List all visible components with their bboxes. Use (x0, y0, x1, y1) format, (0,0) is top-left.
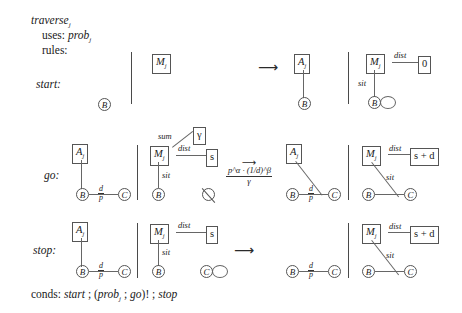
uses-line: uses: probj (42, 29, 91, 44)
rules-label: rules: (42, 44, 68, 56)
node-b-go-lhs: B (76, 188, 89, 201)
null-symbol-go (202, 188, 215, 201)
conds-close-bang: )! (142, 288, 150, 300)
edge-label-dist-stop-effect: dist (389, 221, 401, 231)
box-m-stop-mid: Mj (150, 224, 169, 244)
edge-label-dp-stop-lhs: d p (98, 262, 104, 280)
edge-label-dist-start: dist (394, 50, 406, 60)
edge-sit-start (374, 70, 375, 97)
node-c-stop-effect: C (404, 265, 417, 278)
rule-name: traversej (31, 14, 71, 29)
node-b-stop-rhs: B (286, 265, 299, 278)
node-b-go-rhs: B (286, 188, 299, 201)
edge-label-sit-go: sit (162, 170, 170, 180)
box-dist-value-start: 0 (418, 56, 431, 74)
edge-b-c-stop-effect (375, 271, 404, 272)
edge-label-dist-go-effect: dist (389, 143, 401, 153)
node-b-go-mid: B (152, 188, 165, 201)
rule-label-go: go: (44, 169, 59, 181)
panel-separator (348, 145, 349, 200)
box-m-go-mid: Mj (150, 146, 169, 166)
node-b-start-rhs: B (298, 97, 311, 110)
self-loop-b-start (380, 96, 396, 109)
arrow-start: ⟶ (258, 60, 278, 74)
box-dist-value-go-effect: s + d (410, 148, 439, 166)
edge-label-sit-go-effect: sit (386, 172, 394, 182)
conds-line: conds: start ; (probj ; go)! ; stop (31, 288, 177, 303)
node-c-stop-rhs: C (328, 265, 341, 278)
node-b-stop-mid: B (152, 265, 165, 278)
panel-separator (348, 52, 349, 104)
edge-label-dist-go: dist (178, 143, 190, 153)
edge-label-dp-stop-rhs: d p (308, 262, 314, 280)
conds-stop: stop (158, 288, 177, 300)
arrow-stop: ⟶ (234, 243, 254, 257)
node-b-go-effect: B (362, 188, 375, 201)
node-c-go-lhs: C (118, 188, 131, 201)
box-m-start-effect: Mj (366, 54, 385, 74)
edge-dist-stop-effect (388, 232, 410, 233)
edge-a-b-stop-lhs (81, 238, 82, 267)
box-a-go-rhs: Aj (286, 144, 302, 164)
conds-sep2: ; (124, 288, 127, 300)
node-c-go-effect: C (404, 188, 417, 201)
edge-sit-go (158, 162, 159, 188)
box-dist-value-stop: s (206, 226, 218, 244)
edge-label-sum-go: sum (158, 131, 172, 141)
box-sum-value-go: γ (193, 127, 206, 145)
edge-dist-go (176, 155, 206, 156)
rule-label-stop: stop: (33, 244, 56, 256)
conds-sep1: ; (88, 288, 91, 300)
edge-label-sit-stop: sit (162, 247, 170, 257)
edge-label-sit-start: sit (358, 78, 366, 88)
box-m-start-mid: Mj (152, 54, 171, 74)
edge-dist-start (392, 62, 418, 63)
conds-label: conds: (31, 288, 61, 300)
conds-start: start (64, 288, 85, 300)
figure-canvas: traversej uses: probj rules: start: B Mj… (0, 0, 462, 313)
conds-prob-sub: j (119, 295, 121, 303)
conds-go: go (130, 288, 142, 300)
box-dist-value-go: s (206, 149, 218, 167)
conds-sep3: ; (152, 288, 155, 300)
edge-label-dp-go-lhs: d p (98, 185, 104, 203)
panel-separator (137, 223, 138, 278)
transition-rate-go: ⟶ p^α · (1/d)^β γ (226, 160, 272, 187)
node-b-stop-lhs: B (76, 265, 89, 278)
edge-dist-stop (176, 232, 206, 233)
node-c-stop-lhs: C (118, 265, 131, 278)
panel-separator (348, 223, 349, 278)
panel-separator (131, 52, 132, 104)
node-c-go-rhs: C (328, 188, 341, 201)
edge-a-b-start-rhs (303, 70, 304, 98)
rule-label-start: start: (36, 78, 61, 90)
node-b-start-lhs: B (98, 98, 111, 111)
edge-b-c-go-effect (375, 194, 404, 195)
edge-a-b-go-lhs (81, 160, 82, 189)
edge-label-sit-stop-effect: sit (386, 250, 394, 260)
edge-label-dp-go-rhs: d p (308, 185, 314, 203)
self-loop-c-stop (212, 265, 228, 278)
node-b-stop-effect: B (362, 265, 375, 278)
panel-separator (137, 145, 138, 200)
conds-prob: prob (98, 288, 119, 300)
null-slash-icon (202, 188, 215, 203)
rate-denominator: γ (226, 177, 272, 186)
edge-label-dist-stop: dist (178, 220, 190, 230)
box-dist-value-stop-effect: s + d (410, 226, 439, 244)
edge-sit-stop (158, 240, 159, 266)
edge-dist-go-effect (388, 154, 410, 155)
